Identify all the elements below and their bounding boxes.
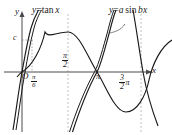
sine-label-fn: sin	[125, 6, 136, 16]
tick-3pi-over-2-num: 3	[119, 74, 125, 82]
tan-branch-1-pair	[16, 10, 42, 130]
tick-pi-over-6-num: π	[31, 74, 37, 81]
tick-pi-over-6: π 6	[31, 73, 37, 90]
sine-curve-label: y=asinbx	[109, 6, 147, 16]
x-axis-label: x	[152, 66, 156, 75]
tick-pi: π	[96, 73, 100, 81]
origin-label: O	[22, 72, 29, 81]
tick-3pi-over-2-suffix: π	[126, 79, 130, 87]
tick-pi-over-2-num: π	[62, 52, 68, 60]
sine-label-arg: bx	[138, 6, 147, 16]
tick-pi-over-2-den: 2	[62, 60, 68, 69]
tan-curve-label: y=tanx	[32, 6, 60, 16]
graph-canvas	[0, 0, 172, 135]
c-mark-label: c	[13, 34, 17, 42]
tick-pi-over-2: π 2	[62, 52, 68, 70]
tick-pi-over-6-den: 6	[31, 81, 37, 89]
tan-label-eq: =tan	[36, 6, 53, 16]
sine-label-leader	[110, 24, 126, 33]
tan-branch-2-pair	[70, 10, 115, 132]
tan-label-var: x	[55, 6, 59, 16]
tan-branch-2	[73, 10, 117, 132]
y-axis-arrowhead	[20, 11, 25, 17]
tick-3pi-over-2-den: 2	[119, 82, 125, 91]
tick-3pi-over-2: 3 2 π	[119, 74, 130, 92]
math-graph-figure: y x O c y=tanx y=asinbx π 6 π 2 π 3 2 π	[0, 0, 172, 135]
sine-label-amp: a	[119, 6, 124, 16]
y-axis-label: y	[15, 7, 19, 16]
